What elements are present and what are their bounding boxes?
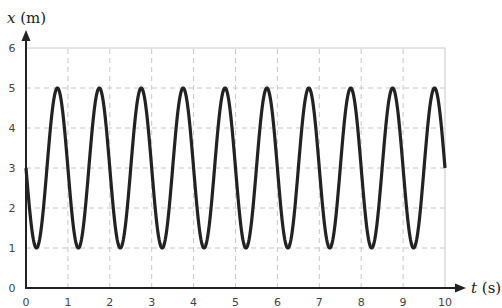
y-tick-label: 4 [9, 122, 16, 135]
y-tick-labels: 0123456 [9, 42, 16, 295]
x-axis-label: t (s) [471, 279, 501, 297]
y-axis-label: x (m) [7, 9, 46, 27]
y-tick-label: 1 [9, 242, 16, 255]
x-tick-label: 2 [106, 296, 113, 308]
chart: 0123456 012345678910 x (m) t (s) [0, 0, 502, 308]
y-tick-label: 2 [9, 202, 16, 215]
x-axis-arrow-icon [455, 284, 466, 293]
x-tick-label: 4 [190, 296, 197, 308]
x-tick-label: 3 [148, 296, 155, 308]
x-tick-label: 9 [400, 296, 407, 308]
y-tick-label: 6 [9, 42, 16, 55]
x-tick-labels: 012345678910 [23, 296, 453, 308]
y-tick-label: 0 [9, 282, 16, 295]
x-tick-label: 5 [232, 296, 239, 308]
x-tick-label: 1 [64, 296, 71, 308]
x-tick-label: 7 [316, 296, 323, 308]
y-axis-arrow-icon [22, 30, 31, 41]
y-tick-label: 5 [9, 82, 16, 95]
x-tick-label: 10 [438, 296, 452, 308]
x-tick-label: 0 [23, 296, 30, 308]
x-tick-label: 6 [274, 296, 281, 308]
x-tick-label: 8 [358, 296, 365, 308]
y-tick-label: 3 [9, 162, 16, 175]
